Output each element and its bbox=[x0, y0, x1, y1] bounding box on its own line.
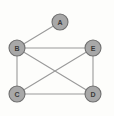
graph-node-a[interactable]: A bbox=[52, 14, 68, 30]
graph-node-e[interactable]: E bbox=[85, 40, 101, 56]
graph-node-b[interactable]: B bbox=[9, 40, 25, 56]
edge-layer bbox=[17, 22, 93, 94]
graph-node-c[interactable]: C bbox=[9, 86, 25, 102]
graph-node-d[interactable]: D bbox=[85, 86, 101, 102]
graph-node-circle-a[interactable] bbox=[52, 14, 68, 30]
graph-node-circle-e[interactable] bbox=[85, 40, 101, 56]
graph-node-circle-c[interactable] bbox=[9, 86, 25, 102]
graph-canvas: ABECD bbox=[0, 0, 114, 116]
graph-node-circle-d[interactable] bbox=[85, 86, 101, 102]
graph-node-circle-b[interactable] bbox=[9, 40, 25, 56]
graph-figure: ABECD bbox=[0, 0, 114, 116]
node-layer: ABECD bbox=[9, 14, 101, 102]
